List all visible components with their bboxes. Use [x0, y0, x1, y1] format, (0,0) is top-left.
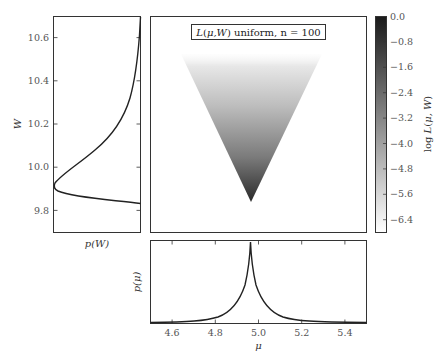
cbar-tick-6: −4.8 [390, 163, 413, 174]
cbar-tick-5: −4.0 [390, 138, 413, 149]
ylabel-pmu: p(μ) [131, 272, 142, 293]
xlabel-pW: p(W) [85, 238, 110, 249]
cbar-tick-0: 0.0 [390, 11, 405, 22]
marginal-w-panel: 9.8 10.0 10.2 10.4 10.6 p(W) W [12, 17, 141, 250]
ytick-10.2: 10.2 [28, 118, 49, 129]
cbar-tick-7: −5.6 [390, 188, 413, 199]
cbar-tick-8: −6.4 [390, 214, 413, 225]
ytick-10.6: 10.6 [28, 32, 49, 43]
ytick-10.0: 10.0 [28, 161, 49, 172]
title-box: L(μ,W) uniform, n = 100 [192, 25, 326, 40]
colorbar: 0.0 −0.8 −1.6 −2.4 −3.2 −4.0 −4.8 −5.6 −… [376, 11, 434, 233]
cbar-tick-4: −3.2 [390, 112, 413, 123]
colorbar-label: log L(μ, W) [422, 96, 433, 153]
ytick-10.4: 10.4 [28, 75, 49, 86]
ylabel-W: W [12, 118, 23, 129]
xtick-5.0: 5.0 [251, 327, 266, 338]
xlabel-mu: μ [255, 340, 262, 351]
xtick-5.2: 5.2 [294, 327, 309, 338]
xtick-4.6: 4.6 [165, 327, 180, 338]
xtick-4.8: 4.8 [208, 327, 223, 338]
cbar-tick-3: −2.4 [390, 87, 413, 98]
likelihood-map-panel: L(μ,W) uniform, n = 100 [151, 17, 367, 233]
marginal-mu-panel: 4.6 4.8 5.0 5.2 5.4 μ p(μ) [131, 241, 367, 352]
xtick-5.4: 5.4 [337, 327, 352, 338]
figure: 9.8 10.0 10.2 10.4 10.6 p(W) W L(μ,W) un… [0, 0, 441, 359]
cbar-tick-1: −0.8 [390, 36, 413, 47]
cbar-tick-2: −1.6 [390, 61, 413, 72]
chart-title: L(μ,W) uniform, n = 100 [195, 27, 320, 38]
ytick-9.8: 9.8 [34, 205, 49, 216]
